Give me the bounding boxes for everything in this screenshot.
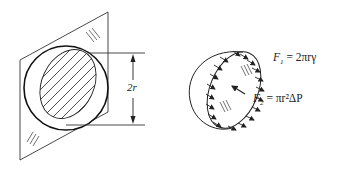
pressure-arrow-icon — [232, 86, 245, 94]
force-2-label: F2 = πr²ΔP — [253, 92, 303, 107]
force-2-symbol: F — [253, 92, 260, 104]
hemisphere — [189, 44, 271, 136]
arrow-up-icon — [131, 54, 136, 62]
force-2-subscript: 2 — [260, 99, 264, 107]
force-1-expression: = 2πrγ — [286, 51, 316, 63]
force-2-expression: = πr²ΔP — [266, 92, 302, 104]
force-1-subscript: 1 — [280, 58, 284, 66]
film-circle — [20, 30, 125, 135]
diagram-canvas — [0, 0, 343, 173]
arrow-down-icon — [131, 116, 136, 124]
dimension-label: 2r — [127, 80, 137, 94]
force-1-symbol: F — [273, 51, 280, 63]
force-1-label: F1 = 2πrγ — [273, 51, 316, 66]
